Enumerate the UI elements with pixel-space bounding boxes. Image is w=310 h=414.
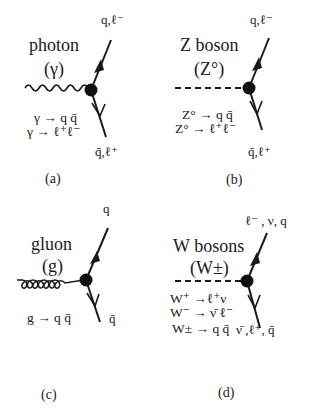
panel-d-boson-name: W bosons [173, 237, 244, 255]
panel-b-caption: (b) [226, 173, 242, 187]
vertex-dot [243, 82, 256, 95]
panel-b-boson-symbol: (Z°) [194, 60, 224, 78]
vertex-dot [85, 84, 98, 97]
panel-a-outgoing-bottom-label: q̄,ℓ⁺ [95, 145, 118, 158]
fermion-line-bottom [249, 88, 262, 130]
photon-wavy-propagator [25, 85, 88, 91]
panel-a-boson-name: photon [29, 36, 79, 54]
panel-d-decay-2: W⁻ → ν̄ ℓ⁻ [170, 306, 233, 320]
panel-b-decay-2: Z° → ℓ⁺ℓ⁻ [175, 122, 236, 136]
panel-a-decay-1: γ → q q̄ [34, 111, 77, 125]
panel-b-decay-1: Z° → q q̄ [182, 108, 233, 122]
panel-a-caption: (a) [45, 172, 61, 186]
fermion-line-bottom [86, 280, 100, 322]
panel-a-outgoing-top-label: q,ℓ⁻ [101, 13, 124, 26]
panel-d-outgoing-top-label: ℓ⁻ , ν, q [245, 214, 287, 227]
panel-d-boson-symbol: (W±) [190, 259, 229, 277]
vertex-dot [80, 274, 93, 287]
panel-d-decay-3: W± → q q̄ [172, 322, 229, 336]
arrow-down-icon [92, 103, 105, 116]
panel-b-outgoing-bottom-label: q̄,ℓ⁺ [248, 145, 271, 158]
panel-c-caption: (c) [41, 388, 57, 402]
panel-c-decay-1: g → q q̄ [27, 311, 71, 325]
panel-d-outgoing-bottom-label: ν̄ ,ℓ⁺, q̄ [236, 323, 274, 336]
panel-c-boson-symbol: (g) [42, 257, 63, 275]
gluon-curly-propagator [17, 280, 84, 288]
panel-b-boson-name: Z boson [180, 36, 239, 54]
panel-c-outgoing-top-label: q [103, 202, 110, 215]
panel-a-boson-symbol: (γ) [44, 60, 64, 78]
panel-d-decay-1: W⁺ →ℓ⁺ν [170, 292, 226, 306]
panel-d-caption: (d) [218, 386, 234, 400]
vertex-dot [241, 275, 254, 288]
panel-a-decay-2: γ → ℓ⁺ℓ⁻ [27, 125, 80, 139]
panel-c-boson-name: gluon [31, 235, 72, 253]
panel-b-outgoing-top-label: q,ℓ⁻ [250, 13, 273, 26]
arrow-down-icon [248, 295, 260, 308]
panel-c-outgoing-bottom-label: q̄ [109, 312, 116, 325]
